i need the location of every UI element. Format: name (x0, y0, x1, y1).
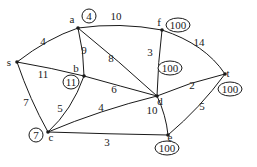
node-a (76, 26, 80, 30)
edge-weight-b-c: 5 (57, 102, 63, 114)
edge-weight-c-e: 3 (104, 136, 110, 148)
nodes-layer: sa4b11f100d100t100c7e100 (7, 9, 242, 155)
distance-label-e: 100 (159, 142, 176, 154)
edge-t-e (168, 74, 225, 135)
edge-s-a (17, 28, 78, 62)
edge-weight-f-d: 3 (147, 46, 153, 58)
edge-weight-s-c: 7 (23, 96, 29, 108)
edge-a-d (78, 28, 157, 96)
edge-weight-f-t: 14 (194, 36, 206, 48)
node-b (82, 74, 86, 78)
graph-diagram: 4109811314627541035 sa4b11f100d100t100c7… (0, 0, 257, 167)
distance-label-c: 7 (33, 129, 39, 141)
edge-weight-s-b: 11 (38, 68, 49, 80)
edge-a-f (78, 25, 162, 30)
edge-weight-b-d: 6 (111, 83, 117, 95)
node-f (160, 28, 164, 32)
node-s (15, 60, 19, 64)
node-label-s: s (7, 56, 11, 68)
edge-weight-a-d: 8 (108, 52, 114, 64)
edge-weight-s-a: 4 (40, 35, 46, 47)
edge-weight-a-f: 10 (111, 10, 123, 22)
edge-weight-t-e: 5 (199, 100, 205, 112)
node-label-t: t (226, 67, 229, 79)
edge-c-e (48, 132, 168, 135)
node-label-f: f (157, 16, 161, 28)
edge-weight-a-b: 9 (81, 44, 87, 56)
node-label-a: a (70, 13, 75, 25)
node-label-c: c (49, 131, 54, 143)
edge-weight-d-t: 2 (189, 79, 195, 91)
edge-weight-d-c: 4 (98, 101, 104, 113)
distance-label-a: 4 (86, 10, 92, 22)
distance-label-b: 11 (66, 76, 77, 88)
distance-label-f: 100 (170, 19, 187, 31)
distance-label-t: 100 (222, 83, 239, 95)
node-label-b: b (73, 62, 79, 74)
node-label-d: d (157, 95, 163, 107)
distance-label-d: 100 (162, 62, 179, 74)
